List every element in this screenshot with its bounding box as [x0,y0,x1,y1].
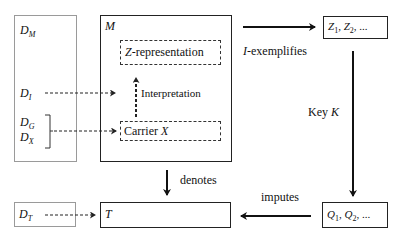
dg-dx-bracket [45,115,53,148]
arrows-layer [0,0,398,242]
